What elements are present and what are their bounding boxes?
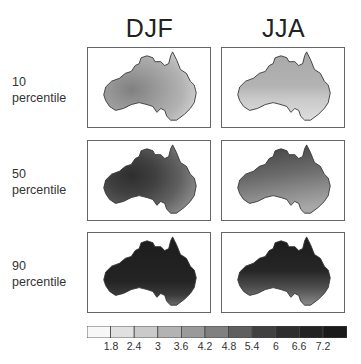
row-label-value: 90 — [12, 258, 66, 274]
colorbar-tick: 6.6 — [292, 340, 307, 352]
colorbar-tick: 3.6 — [174, 340, 189, 352]
colorbar-tick: 1.8 — [104, 340, 119, 352]
row-label-text: percentile — [12, 182, 66, 198]
row-label-text: percentile — [12, 90, 66, 106]
row-label-10: 10 percentile — [12, 74, 66, 106]
row-label-text: percentile — [12, 274, 66, 290]
row-label-value: 10 — [12, 74, 66, 90]
row-label-90: 90 percentile — [12, 258, 66, 290]
map-panel-djf-90 — [87, 232, 211, 313]
colorbar-tick: 3 — [155, 340, 161, 352]
colorbar-tick: 4.8 — [222, 340, 237, 352]
colorbar — [87, 326, 347, 338]
colorbar-tick: 6 — [273, 340, 279, 352]
colorbar-tick: 2.4 — [127, 340, 142, 352]
map-panel-djf-50 — [87, 140, 211, 221]
map-panel-djf-10 — [87, 47, 211, 128]
map-panel-jja-50 — [221, 140, 345, 221]
colorbar-tick: 4.2 — [198, 340, 213, 352]
map-panel-jja-90 — [221, 232, 345, 313]
column-title-djf: DJF — [87, 14, 212, 43]
row-label-value: 50 — [12, 166, 66, 182]
colorbar-tick: 5.4 — [245, 340, 260, 352]
row-label-50: 50 percentile — [12, 166, 66, 198]
map-panel-jja-10 — [221, 47, 345, 128]
colorbar-tick: 7.2 — [316, 340, 331, 352]
column-title-jja: JJA — [221, 14, 346, 43]
